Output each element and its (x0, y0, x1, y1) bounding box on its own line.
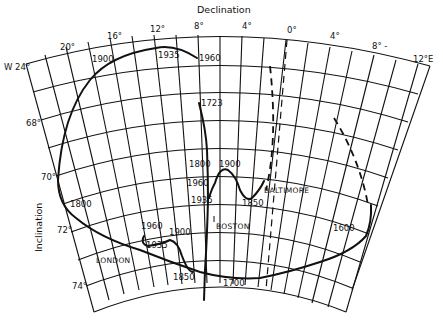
year-label: 1850 (173, 272, 195, 282)
year-label: 1960 (199, 53, 221, 63)
inclination-tick-label: 70° (41, 172, 56, 182)
inclination-tick-label: 68° (26, 118, 41, 128)
inclination-axis-title: Inclination (33, 203, 44, 252)
year-label: 1935 (158, 50, 180, 60)
year-label: 1935 (191, 195, 213, 205)
city-label: BALTIMORE (264, 186, 309, 195)
year-label: 1900 (92, 54, 114, 64)
declination-tick-label: 4° (330, 31, 340, 41)
year-label: 1800 (189, 159, 211, 169)
year-label: 1723 (201, 98, 223, 108)
declination-tick-label: 4° (242, 21, 252, 31)
year-label: 1960 (141, 221, 163, 231)
declination-tick-label: 0° (287, 25, 297, 35)
declination-axis-title: Declination (197, 4, 251, 15)
inclination-tick-label: 74° (72, 281, 87, 291)
declination-tick-label: 12° (150, 24, 165, 34)
london-secular-variation-curve (58, 47, 371, 278)
city-label: BOSTON (216, 222, 250, 231)
year-label: 1850 (242, 198, 264, 208)
year-label: 1960 (187, 178, 209, 188)
early-record-dashed-path (334, 118, 368, 205)
city-label: LONDON (96, 256, 131, 265)
year-label: 1900 (169, 227, 191, 237)
year-labels: 1900193519601723180019001960193518501800… (70, 50, 355, 288)
inclination-grid-lines (26, 36, 430, 312)
baltimore-dashed-path (266, 66, 273, 190)
declination-tick-label: W 24° (4, 62, 30, 72)
declination-grid-lines (26, 35, 430, 312)
declination-tick-label: 8° (194, 21, 204, 31)
declination-tick-label: 16° (107, 31, 122, 41)
declination-tick-label: 12°E (413, 54, 433, 64)
inclination-tick-label: 72° (57, 225, 72, 235)
year-label: 1900 (219, 159, 241, 169)
declination-tick-labels: W 24°20°16°12°8°4°0°4°8° -12°E (4, 21, 433, 72)
declination-tick-label: 8° - (372, 41, 387, 51)
inclination-declination-diagram: Declination Inclination (0, 0, 443, 322)
year-label: 1600 (333, 223, 355, 233)
declination-tick-label: 20° (60, 42, 75, 52)
year-label: 1935 (146, 240, 168, 250)
year-label: 1700 (223, 278, 245, 288)
year-label: 1800 (70, 199, 92, 209)
